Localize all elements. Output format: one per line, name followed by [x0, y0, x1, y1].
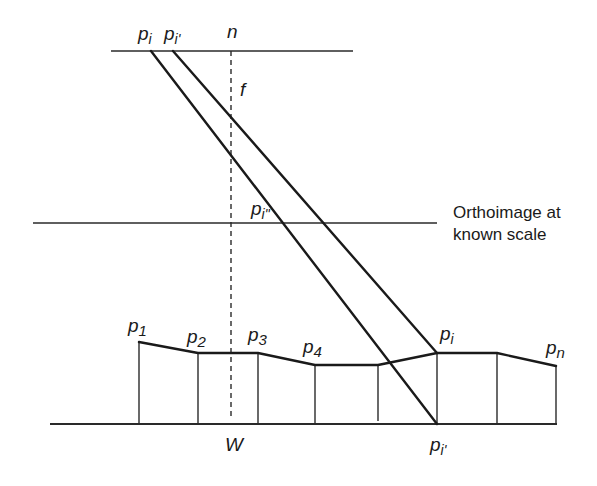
ray-to-terrain	[173, 51, 437, 353]
label-image-point-pi-prime: pi'	[163, 23, 182, 47]
label-nadir-n: n	[227, 21, 238, 42]
label-p2: p2	[186, 326, 207, 350]
label-image-point-pi: pi	[137, 23, 153, 47]
label-p4: p4	[302, 336, 322, 360]
label-focal-length-f: f	[240, 79, 247, 100]
orthophoto-rectification-diagram: pi pi' n f pi" Orthoimage at known scale…	[0, 0, 597, 486]
orthoimage-caption-line2: known scale	[453, 225, 547, 244]
terrain-verticals	[139, 342, 556, 424]
label-pi-datum: pi'	[429, 434, 448, 458]
ray-to-datum	[151, 51, 437, 424]
orthoimage-caption-line1: Orthoimage at	[453, 203, 561, 222]
label-pn: pn	[545, 337, 565, 361]
label-p1: p1	[127, 315, 147, 339]
label-p3: p3	[247, 324, 268, 348]
label-datum-w: W	[225, 434, 245, 455]
label-pi-ground: pi	[439, 323, 455, 347]
